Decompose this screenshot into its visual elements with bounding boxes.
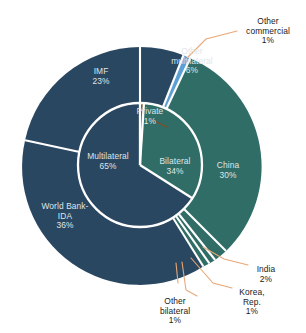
pie-chart: IMF 23% World Bank- IDA 36% Other multil… — [0, 0, 306, 333]
leader-line-other-commercial — [187, 31, 237, 58]
pie-chart-svg — [0, 0, 306, 333]
